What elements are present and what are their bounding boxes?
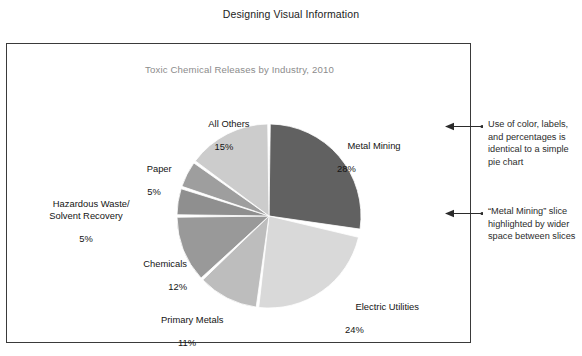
pie-slice-electric-utilities: [259, 216, 359, 308]
annotation-guide-rule: [478, 44, 479, 342]
slice-label-paper-pct: 5%: [119, 186, 189, 197]
slice-label-metal-mining-name: Metal Mining: [347, 140, 400, 151]
figure-frame: Toxic Chemical Releases by Industry, 201…: [6, 43, 471, 343]
slice-label-paper-name: Paper: [147, 163, 172, 174]
slice-label-hazardous-waste-name: Hazardous Waste/ Solvent Recovery: [49, 198, 129, 220]
slice-label-electric-utilities-name: Electric Utilities: [355, 301, 419, 312]
slice-label-primary-metals-name: Primary Metals: [161, 314, 224, 325]
page-title: Designing Visual Information: [0, 8, 582, 20]
slice-label-paper: Paper 5%: [119, 152, 189, 220]
annotation-highlight-gap: “Metal Mining” slice highlighted by wide…: [488, 205, 580, 243]
slice-label-metal-mining-pct: 28%: [337, 163, 441, 174]
slice-label-hazardous-waste-pct: 5%: [21, 233, 151, 244]
annotation-color-labels: Use of color, labels, and percentages is…: [488, 118, 580, 168]
slice-label-all-others-pct: 15%: [176, 141, 272, 152]
slice-label-electric-utilities: Electric Utilities 24%: [345, 290, 455, 356]
left-arrow-icon: [445, 209, 483, 218]
annotation-arrow-1: [445, 122, 483, 131]
annotation-arrow-2: [445, 209, 483, 218]
slice-label-all-others: All Others 15%: [176, 107, 272, 175]
left-arrow-icon: [445, 122, 483, 131]
slice-label-electric-utilities-pct: 24%: [345, 324, 455, 335]
slice-label-metal-mining: Metal Mining 28%: [337, 129, 441, 197]
slice-label-chemicals-pct: 12%: [91, 281, 187, 292]
slice-label-all-others-name: All Others: [208, 118, 249, 129]
slice-label-primary-metals-pct: 11%: [131, 337, 243, 348]
